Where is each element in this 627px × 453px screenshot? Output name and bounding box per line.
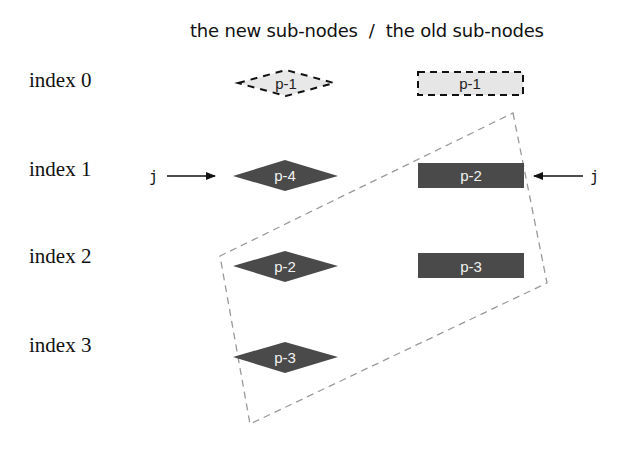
new-j-pointer: j [149,168,215,186]
new-subnode-3-label: p-3 [274,349,296,366]
old-subnode-0: p-1 [418,72,523,95]
new-subnode-0-label: p-1 [275,75,297,92]
diagram-canvas: p-1 p-1 p-4 p-2 p-3 p-2 p-3 j j [0,0,627,453]
old-j-label: j [590,168,599,186]
new-subnode-0: p-1 [238,70,334,96]
old-subnode-1-label: p-2 [460,167,482,184]
old-subnode-2: p-3 [418,253,524,278]
new-subnode-1: p-4 [233,160,338,191]
new-subnode-2-label: p-2 [274,258,296,275]
new-subnode-1-label: p-4 [274,167,296,184]
old-subnode-0-label: p-1 [459,75,481,92]
old-subnode-1: p-2 [418,163,524,188]
old-j-pointer: j [534,168,599,186]
old-subnode-2-label: p-3 [460,258,482,275]
new-subnode-3: p-3 [233,342,338,373]
new-subnode-2: p-2 [233,251,338,282]
new-j-label: j [149,168,158,186]
